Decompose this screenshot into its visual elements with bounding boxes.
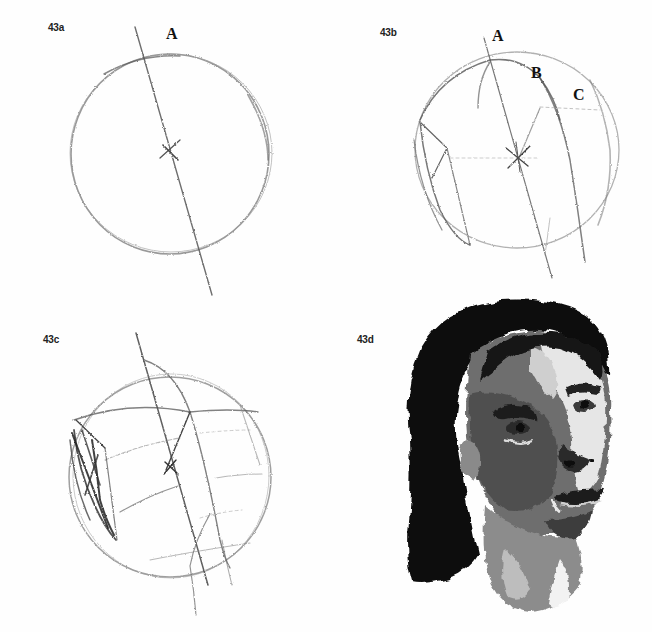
figure-label-43d: 43d xyxy=(357,334,374,345)
figure-43c-sketch xyxy=(69,333,271,615)
illustration-canvas xyxy=(0,0,652,632)
book-page: 43a 43b 43c 43d A A B C xyxy=(0,0,652,632)
figure-43b-sketch xyxy=(414,38,619,278)
figure-43a-sketch xyxy=(70,27,272,295)
annotation-b-43b: B xyxy=(531,64,542,82)
figure-label-43b: 43b xyxy=(380,27,397,38)
figure-label-43c: 43c xyxy=(43,334,59,345)
figure-43d-portrait xyxy=(407,299,610,612)
annotation-a-43a: A xyxy=(166,25,178,43)
annotation-a-43b: A xyxy=(492,27,504,45)
figure-label-43a: 43a xyxy=(48,22,64,33)
annotation-c-43b: C xyxy=(573,86,585,104)
